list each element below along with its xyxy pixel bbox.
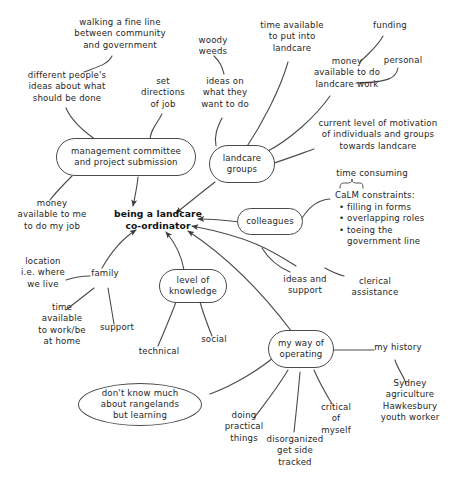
calm-constraints-block: CaLM constraints: filling in forms overl… bbox=[335, 190, 451, 248]
node-dont-know-much-rangelands[interactable]: don't know much about rangelands but lea… bbox=[78, 383, 202, 426]
label-ideas-on-what-they-want: ideas on what they want to do bbox=[193, 76, 257, 110]
label-walking-fine-line: walking a fine line between community an… bbox=[60, 17, 180, 51]
node-management-committee[interactable]: management committee and project submiss… bbox=[56, 138, 196, 176]
label-critical-of-myself: critical of myself bbox=[310, 402, 362, 436]
calm-constraint-item: overlapping roles bbox=[342, 213, 451, 225]
label-money-available-to-me: money available to me to do my job bbox=[4, 198, 100, 232]
label-technical: technical bbox=[128, 346, 190, 357]
label-set-directions-of-job: set directions of job bbox=[135, 76, 191, 110]
label-clerical-assistance: clerical assistance bbox=[340, 276, 410, 299]
node-my-way-of-operating[interactable]: my way of operating bbox=[268, 330, 334, 368]
edge-management-moneytome bbox=[50, 176, 72, 200]
label-family: family bbox=[84, 268, 126, 279]
label-funding: funding bbox=[362, 20, 418, 31]
edge-ideasonwhat-landcaregroups bbox=[215, 118, 222, 146]
node-level-of-knowledge[interactable]: level of knowledge bbox=[159, 269, 227, 303]
label-ideas-and-support: ideas and support bbox=[272, 274, 338, 297]
edge-setdirections-management bbox=[150, 114, 162, 140]
label-personal: personal bbox=[376, 55, 430, 66]
concept-map-canvas: walking a fine line between community an… bbox=[0, 0, 453, 492]
label-woody-weeds: woody weeds bbox=[183, 35, 243, 58]
edge-levelknowledge-technical bbox=[158, 302, 176, 346]
edge-family-center bbox=[102, 230, 136, 268]
label-location: location i.e. where we live bbox=[14, 256, 72, 290]
edge-differentideas-management bbox=[66, 108, 99, 142]
edge-calm-colleagues bbox=[302, 199, 330, 218]
edge-management-center bbox=[133, 177, 138, 206]
calm-constraint-item: filling in forms bbox=[342, 202, 451, 214]
edge-woodyweeds-ideasonwhat bbox=[214, 56, 224, 74]
label-sydney-agriculture-hawkesbury: Sydney agriculture Hawkesbury youth work… bbox=[372, 378, 448, 423]
edge-levelknowledge-center bbox=[166, 232, 184, 270]
label-time-consuming: time consuming bbox=[324, 168, 420, 179]
label-time-available-landcare: time available to put into landcare bbox=[247, 20, 337, 54]
edge-mywayoperating-critical bbox=[314, 370, 332, 404]
edge-family-support bbox=[108, 288, 114, 324]
node-landcare-groups[interactable]: landcare groups bbox=[209, 145, 275, 183]
label-social: social bbox=[192, 334, 236, 345]
calm-constraint-item: toeing the bbox=[342, 225, 451, 237]
node-colleagues[interactable]: colleagues bbox=[237, 208, 303, 235]
label-support: support bbox=[92, 322, 142, 333]
edge-mywayoperating-disorganized bbox=[294, 372, 300, 432]
calm-constraints-heading: CaLM constraints: bbox=[335, 190, 451, 202]
edge-levelknowledge-social bbox=[200, 302, 212, 336]
label-my-history: my history bbox=[368, 342, 428, 353]
calm-constraint-item-continuation: government line bbox=[335, 236, 451, 248]
label-different-peoples-ideas: different people's ideas about what shou… bbox=[12, 70, 122, 104]
label-current-level-of-motivation: current level of motivation of individua… bbox=[305, 118, 451, 152]
center-node-being-a-landcare-coordinator[interactable]: being a landcare co-ordinator bbox=[110, 208, 206, 233]
label-time-available-at-home: time available to work/be at home bbox=[26, 302, 98, 347]
calm-constraints-list: filling in forms overlapping roles toein… bbox=[335, 202, 451, 237]
edge-colleagues-ideassupport bbox=[262, 248, 290, 272]
label-disorganized-get-side-tracked: disorganized get side tracked bbox=[256, 434, 334, 468]
brace-time-consuming bbox=[340, 179, 363, 188]
